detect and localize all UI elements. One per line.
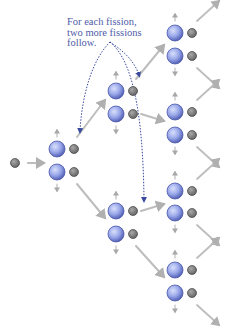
stage-3-neutron-lower-2 [188, 209, 197, 218]
stage-3-nucleus-upper-3 [167, 262, 183, 278]
stage-2-neutron-lower-1 [129, 230, 138, 239]
stage-2-nucleus-lower-1 [108, 226, 124, 242]
stage-3-nucleus-lower-2 [167, 205, 183, 221]
stage-2-neutron-upper-0 [129, 87, 138, 96]
neutron-arrow-up [77, 100, 105, 137]
neutron-arrow-right [141, 204, 164, 211]
stage-3-nucleus-lower-3 [167, 285, 183, 301]
initial-neutron [11, 159, 20, 168]
stage-3-neutron-upper-3 [188, 266, 197, 275]
stage-3-nucleus-lower-1 [167, 127, 183, 143]
stage-1-neutron-lower-0 [70, 168, 79, 177]
stage-3-nucleus-upper-1 [167, 104, 183, 120]
stage-2-neutron-lower-0 [129, 110, 138, 119]
stage-3-nucleus-lower-0 [167, 48, 183, 64]
stage-3-nucleus-upper-2 [167, 183, 183, 199]
neutron-arrow-out-down [197, 305, 219, 325]
stage-3-neutron-lower-0 [188, 52, 197, 61]
stage-2-nucleus-upper-0 [108, 83, 124, 99]
neutron-arrow-out-down [197, 68, 219, 88]
neutron-arrow-out-up [197, 1, 219, 21]
neutron-arrow-up [136, 45, 164, 79]
gray-arrows [28, 1, 219, 325]
neutron-arrow-down [136, 246, 164, 277]
stage-1-neutron-upper-0 [70, 145, 79, 154]
dotted-arrow-to-stage2-upper [110, 42, 139, 75]
stage-1-nucleus-lower-0 [49, 164, 65, 180]
stage-3-neutron-lower-1 [188, 131, 197, 140]
stage-3-neutron-lower-3 [188, 289, 197, 298]
dotted-arrow-to-stage1 [80, 42, 110, 131]
neutron-arrow-out-down [197, 147, 219, 167]
stage-3-neutron-upper-1 [188, 108, 197, 117]
neutron-arrow-out-up [197, 159, 219, 179]
stage-2-nucleus-lower-0 [108, 106, 124, 122]
neutron-arrow-out-up [197, 238, 219, 258]
chain-reaction-diagram [0, 0, 226, 332]
stage-3-nucleus-upper-0 [167, 25, 183, 41]
stage-3-neutron-upper-0 [188, 29, 197, 38]
stage-2-neutron-upper-1 [129, 207, 138, 216]
neutron-arrow-right [141, 114, 164, 121]
neutron-arrow-down [77, 184, 105, 218]
stage-3-neutron-upper-2 [188, 187, 197, 196]
stage-2-nucleus-upper-1 [108, 203, 124, 219]
stage-1-nucleus-upper-0 [49, 141, 65, 157]
neutron-arrow-out-up [197, 80, 219, 100]
